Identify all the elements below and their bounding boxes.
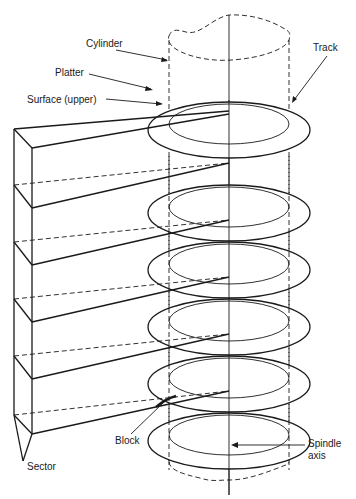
- cylinder-leader: [116, 50, 167, 60]
- disk-geometry-diagram: [0, 0, 356, 499]
- label-platter: Platter: [55, 67, 84, 78]
- label-sector: Sector: [27, 461, 56, 472]
- label-track: Track: [313, 42, 338, 53]
- label-surface-upper: Surface (upper): [27, 94, 96, 105]
- platter-leader: [89, 74, 151, 89]
- label-spindle-axis: axis: [308, 450, 326, 461]
- label-block: Block: [115, 435, 139, 446]
- track-leader: [294, 56, 327, 100]
- label-spindle: Spindle: [308, 438, 341, 449]
- surface-leader: [106, 99, 161, 104]
- label-cylinder: Cylinder: [86, 38, 123, 49]
